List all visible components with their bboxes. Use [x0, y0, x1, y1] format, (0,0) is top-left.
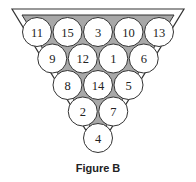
ball: 13 — [145, 18, 174, 47]
balls-group: 111531013912168145274 — [23, 18, 174, 153]
ball-number: 4 — [95, 132, 102, 146]
ball-number: 8 — [64, 79, 70, 93]
ball-number: 15 — [61, 26, 74, 40]
ball-number: 2 — [80, 105, 86, 119]
ball: 5 — [114, 71, 143, 100]
ball-number: 6 — [141, 52, 147, 66]
ball-number: 9 — [49, 52, 55, 66]
ball-number: 1 — [110, 52, 116, 66]
figure-caption: Figure B — [0, 162, 196, 174]
ball-number: 5 — [125, 79, 131, 93]
ball-number: 14 — [92, 79, 105, 93]
ball: 3 — [84, 18, 113, 47]
ball-number: 11 — [31, 26, 43, 40]
billiard-rack-diagram: 111531013912168145274 — [0, 0, 196, 160]
ball: 7 — [99, 97, 128, 126]
ball: 15 — [53, 18, 82, 47]
ball: 14 — [84, 71, 113, 100]
ball-number: 12 — [77, 52, 90, 66]
ball: 2 — [68, 97, 97, 126]
ball-number: 10 — [122, 26, 135, 40]
ball: 9 — [38, 44, 67, 73]
ball: 10 — [114, 18, 143, 47]
ball: 12 — [68, 44, 97, 73]
ball: 11 — [23, 18, 52, 47]
ball-number: 7 — [110, 105, 116, 119]
ball-number: 13 — [153, 26, 166, 40]
ball-number: 3 — [95, 26, 101, 40]
ball: 1 — [99, 44, 128, 73]
ball: 8 — [53, 71, 82, 100]
ball: 6 — [129, 44, 158, 73]
ball: 4 — [84, 124, 113, 153]
